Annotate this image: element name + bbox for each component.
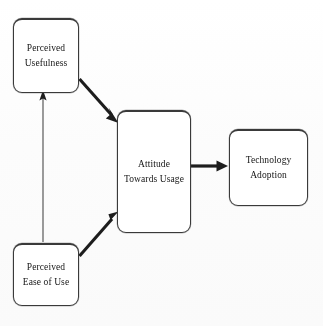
- node-label-line1: Technology: [246, 153, 292, 168]
- node-label-line2: Ease of Use: [23, 275, 69, 290]
- node-label-line2: Towards Usage: [124, 172, 184, 187]
- edge-peou-to-pu: [39, 90, 46, 242]
- edge-atu-to-ta: [191, 161, 228, 172]
- diagram-canvas: Perceived Usefulness Perceived Ease of U…: [0, 0, 323, 326]
- arrowhead-right-icon: [217, 161, 229, 172]
- node-perceived-usefulness[interactable]: Perceived Usefulness: [13, 18, 79, 93]
- node-label-line1: Perceived: [27, 260, 65, 275]
- edge-pu-to-atu: [80, 79, 119, 123]
- node-attitude-towards-usage[interactable]: Attitude Towards Usage: [117, 110, 191, 233]
- node-label-line2: Usefulness: [25, 56, 68, 71]
- edge-peou-to-atu: [80, 212, 119, 257]
- node-label-line1: Perceived: [27, 41, 65, 56]
- node-label-line2: Adoption: [250, 168, 287, 183]
- node-label-line1: Attitude: [138, 157, 170, 172]
- node-technology-adoption[interactable]: Technology Adoption: [229, 129, 308, 206]
- node-perceived-ease-of-use[interactable]: Perceived Ease of Use: [13, 243, 79, 306]
